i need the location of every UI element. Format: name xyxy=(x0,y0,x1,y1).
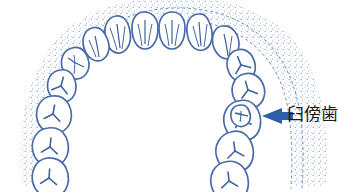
tooth-incisor-central-left xyxy=(132,12,158,49)
tooth-incisor-lateral-right xyxy=(187,14,212,50)
tooth-paramolar-supernumerary xyxy=(231,105,251,127)
annotation-label: 臼傍歯 xyxy=(287,104,338,124)
tooth-molar-third-right xyxy=(211,161,249,192)
tooth-incisor-central-right xyxy=(159,12,185,49)
teeth-left-quadrant xyxy=(32,12,158,192)
figure-canvas: 臼傍歯 xyxy=(0,0,355,192)
tooth-molar-third-left xyxy=(32,158,68,192)
dental-arch-illustration xyxy=(0,0,355,192)
